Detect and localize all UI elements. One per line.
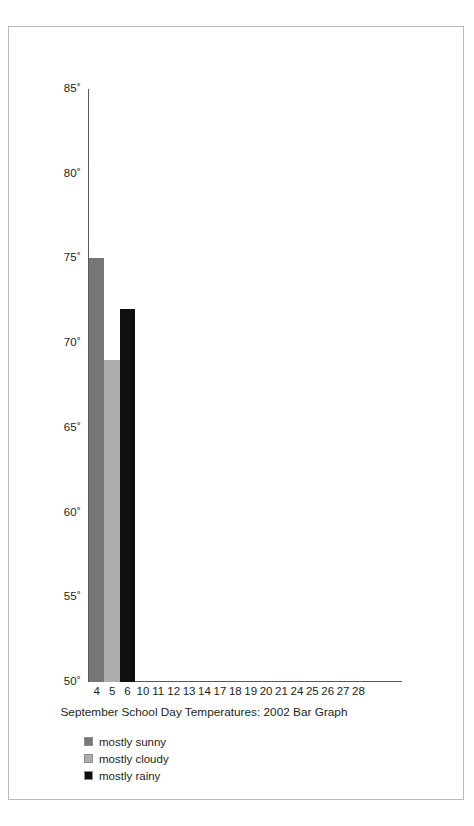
x-axis-tick-label: 12 <box>167 685 180 697</box>
x-axis-tick-label: 18 <box>229 685 242 697</box>
bar-6 <box>120 309 135 682</box>
chart-title: September School Day Temperatures: 2002 … <box>9 705 399 719</box>
chart-legend: mostly sunnymostly cloudymostly rainy <box>84 734 169 785</box>
x-axis-tick-label: 19 <box>244 685 257 697</box>
x-axis-tick-label: 28 <box>352 685 365 697</box>
chart-frame: 85˚80˚75˚70˚65˚60˚55˚50˚ 456101112131417… <box>8 26 464 800</box>
x-axis-tick-label: 20 <box>260 685 273 697</box>
x-axis-tick-label: 5 <box>109 685 115 697</box>
x-axis-tick-label: 13 <box>183 685 196 697</box>
legend-label: mostly cloudy <box>99 753 169 765</box>
x-axis-tick-label: 10 <box>136 685 149 697</box>
x-axis-tick-label: 14 <box>198 685 211 697</box>
x-axis-tick-label: 25 <box>306 685 319 697</box>
x-axis-tick-label: 6 <box>124 685 130 697</box>
x-axis-tick-label: 4 <box>93 685 99 697</box>
bar-4 <box>89 258 104 682</box>
x-axis-tick-label: 26 <box>321 685 334 697</box>
legend-label: mostly sunny <box>99 736 166 748</box>
plot-area: 85˚80˚75˚70˚65˚60˚55˚50˚ 456101112131417… <box>9 27 465 801</box>
x-axis-tick-label: 21 <box>275 685 288 697</box>
legend-label: mostly rainy <box>99 770 160 782</box>
legend-item: mostly rainy <box>84 768 169 783</box>
legend-swatch-icon <box>84 737 93 746</box>
legend-item: mostly cloudy <box>84 751 169 766</box>
x-axis-tick-label: 27 <box>337 685 350 697</box>
x-axis-tick-label: 17 <box>213 685 226 697</box>
x-axis-tick-label: 24 <box>290 685 303 697</box>
x-axis-tick-labels: 456101112131417181920212425262728 <box>9 685 465 705</box>
legend-swatch-icon <box>84 754 93 763</box>
x-axis-tick-label: 11 <box>152 685 164 697</box>
bar-5 <box>104 360 119 682</box>
legend-item: mostly sunny <box>84 734 169 749</box>
legend-swatch-icon <box>84 771 93 780</box>
